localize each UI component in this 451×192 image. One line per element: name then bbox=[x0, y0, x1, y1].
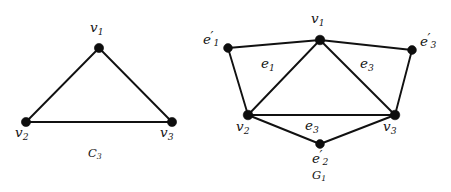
vertex-v1 bbox=[94, 43, 103, 52]
edge-v1-v3 bbox=[320, 40, 395, 115]
label-right-e2-prime: e′2 bbox=[312, 150, 328, 167]
vertex-v1 bbox=[315, 35, 325, 45]
vertex-e1-prime bbox=[224, 44, 233, 53]
edge-v1-e1prime bbox=[228, 40, 320, 48]
caption-left-graph: C3 bbox=[88, 148, 102, 161]
label-right-v1: v1 bbox=[311, 12, 324, 27]
vertex-v2 bbox=[243, 110, 253, 120]
edge-v1-v2 bbox=[248, 40, 320, 115]
edge-v1-v3 bbox=[99, 48, 172, 122]
label-edge-e1: e1 bbox=[261, 57, 275, 72]
graph-canvas bbox=[0, 0, 451, 192]
label-right-e3-prime: e′3 bbox=[420, 33, 436, 50]
label-left-v3: v3 bbox=[160, 126, 173, 141]
label-right-v2: v2 bbox=[236, 120, 249, 135]
edge-v1-v2 bbox=[26, 48, 99, 122]
left-graph bbox=[21, 43, 176, 126]
edge-e1prime-v2 bbox=[228, 48, 248, 115]
vertex-v3 bbox=[390, 110, 400, 120]
label-edge-e3-bottom: e3 bbox=[305, 119, 319, 134]
caption-right-graph: G1 bbox=[312, 170, 326, 183]
vertex-e3-prime bbox=[408, 46, 417, 55]
edge-v1-e3prime bbox=[320, 40, 412, 50]
label-left-v2: v2 bbox=[15, 126, 28, 141]
label-left-v1: v1 bbox=[90, 21, 103, 36]
edge-e3prime-v3 bbox=[395, 50, 412, 115]
label-edge-e3-right: e3 bbox=[360, 57, 374, 72]
label-right-e1-prime: e′1 bbox=[203, 31, 219, 48]
label-right-v3: v3 bbox=[383, 120, 396, 135]
figure-root: v1 v2 v3 C3 v1 v2 v3 e′1 e′3 e′2 e1 e3 e… bbox=[0, 0, 451, 192]
